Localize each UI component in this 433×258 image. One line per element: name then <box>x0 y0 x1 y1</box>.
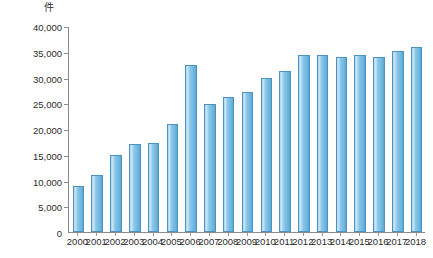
bar-slot <box>223 97 235 232</box>
bar <box>148 143 160 232</box>
bars-layer <box>69 27 425 232</box>
bar-slot <box>336 57 348 232</box>
bar-slot <box>167 124 179 232</box>
x-axis-tick-mark <box>303 233 304 236</box>
bar-slot <box>317 55 329 232</box>
bar <box>91 175 103 232</box>
x-axis-tick-mark <box>247 233 248 236</box>
y-axis-tick-label: 35,000 <box>6 47 62 58</box>
bar-slot <box>185 65 197 232</box>
bar-slot <box>148 143 160 232</box>
x-axis-tick-mark <box>209 233 210 236</box>
y-axis-tick-label: 15,000 <box>6 150 62 161</box>
bar <box>317 55 329 232</box>
y-axis-tick-label: 30,000 <box>6 73 62 84</box>
x-axis-tick-mark <box>322 233 323 236</box>
x-axis-tick-mark <box>228 233 229 236</box>
bar <box>73 186 85 232</box>
y-axis-tick-label: 10,000 <box>6 176 62 187</box>
x-axis-tick-mark <box>340 233 341 236</box>
bar <box>336 57 348 232</box>
x-axis-tick-mark <box>96 233 97 236</box>
x-axis-tick-mark <box>265 233 266 236</box>
x-axis-tick-label: 2018 <box>402 236 430 247</box>
y-axis-tick-label: 20,000 <box>6 125 62 136</box>
x-axis-tick-mark <box>416 233 417 236</box>
bar-chart: 件 05,00010,00015,00020,00025,00030,00035… <box>0 0 433 258</box>
bar-slot <box>129 144 141 232</box>
bar <box>167 124 179 232</box>
bar <box>392 51 404 232</box>
plot-area <box>68 27 425 233</box>
bar-slot <box>354 55 366 232</box>
bar <box>129 144 141 232</box>
bar-slot <box>279 71 291 232</box>
x-axis-tick-mark <box>397 233 398 236</box>
y-axis-unit-label: 件 <box>44 2 54 14</box>
bar <box>373 57 385 232</box>
x-axis-tick-mark <box>284 233 285 236</box>
x-axis-tick-mark <box>153 233 154 236</box>
bar <box>204 104 216 232</box>
x-axis-tick-mark <box>359 233 360 236</box>
bar <box>298 55 310 232</box>
x-axis-tick-mark <box>171 233 172 236</box>
bar <box>279 71 291 232</box>
bar <box>223 97 235 232</box>
bar-slot <box>392 51 404 232</box>
bar-slot <box>110 155 122 232</box>
y-axis-tick-label: 0 <box>6 228 62 239</box>
bar <box>354 55 366 232</box>
bar-slot <box>91 175 103 232</box>
y-axis-tick-label: 40,000 <box>6 22 62 33</box>
bar-slot <box>73 186 85 232</box>
bar-slot <box>411 47 423 232</box>
bar-slot <box>242 92 254 232</box>
bar <box>185 65 197 232</box>
x-axis-tick-mark <box>77 233 78 236</box>
bar-slot <box>261 78 273 233</box>
bar <box>411 47 423 232</box>
bar <box>242 92 254 232</box>
bar-slot <box>373 57 385 232</box>
bar <box>261 78 273 233</box>
bar-slot <box>298 55 310 232</box>
x-axis-tick-mark <box>378 233 379 236</box>
bar-slot <box>204 104 216 232</box>
x-axis-tick-mark <box>134 233 135 236</box>
x-axis-tick-mark <box>190 233 191 236</box>
y-axis-tick-label: 25,000 <box>6 99 62 110</box>
x-axis-tick-mark <box>115 233 116 236</box>
y-axis-tick-label: 5,000 <box>6 202 62 213</box>
bar <box>110 155 122 232</box>
